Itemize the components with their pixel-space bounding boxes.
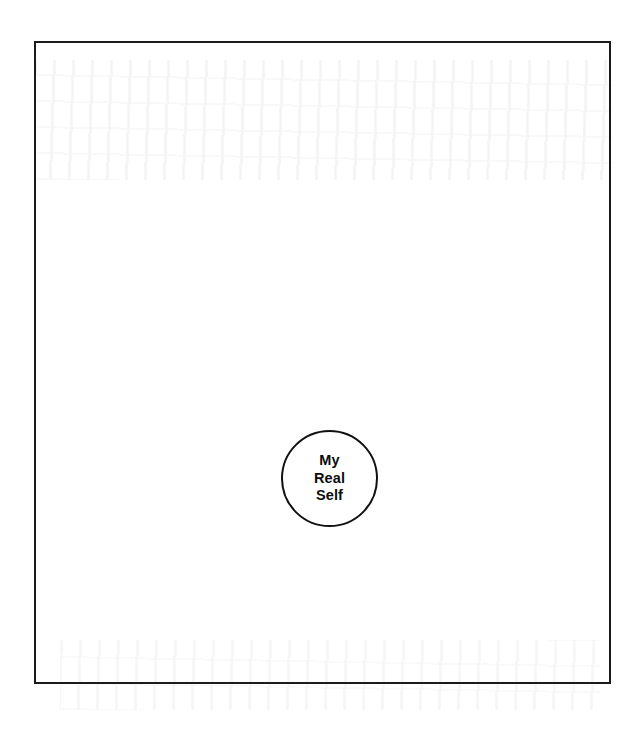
real-self-label-line-3: Self bbox=[316, 487, 343, 505]
real-self-label-line-1: My bbox=[319, 452, 339, 470]
page-canvas: My Real Self bbox=[0, 0, 643, 733]
real-self-circle[interactable]: My Real Self bbox=[281, 430, 378, 527]
real-self-label-line-2: Real bbox=[314, 470, 345, 488]
outer-boundary-rectangle bbox=[34, 41, 611, 684]
